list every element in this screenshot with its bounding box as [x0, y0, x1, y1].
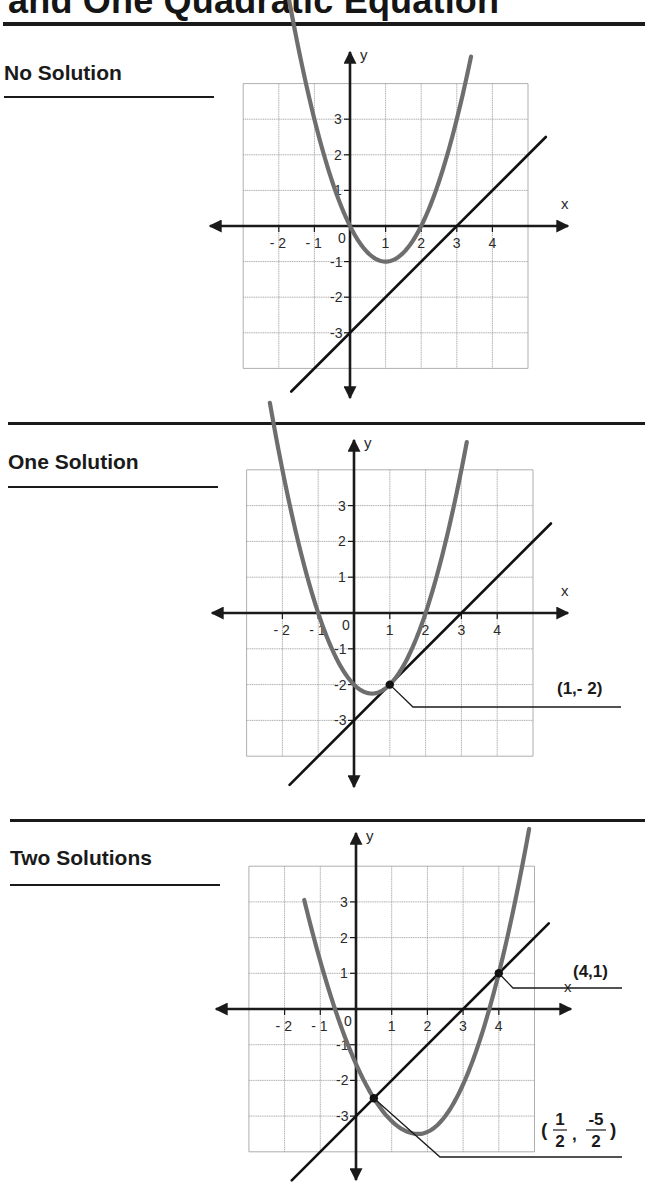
y-axis-label: y	[360, 46, 368, 63]
comma: ,	[572, 1125, 577, 1144]
fraction-denominator: 2	[591, 1132, 600, 1151]
paren-close: )	[610, 1119, 616, 1140]
x-tick-label: 4	[495, 1018, 503, 1034]
x-axis-label: x	[564, 978, 572, 995]
y-tick-label: 3	[340, 894, 348, 910]
linear-function-line	[290, 524, 551, 785]
x-axis-label: x	[561, 195, 569, 212]
y-tick-label: -3	[334, 712, 347, 728]
x-axis-label: x	[561, 582, 569, 599]
y-tick-label: 3	[338, 498, 346, 514]
x-tick-label: - 1	[311, 1018, 328, 1034]
x-tick-label: 0	[342, 617, 350, 633]
fraction-numerator: -5	[588, 1110, 603, 1129]
x-tick-label: 3	[453, 235, 461, 251]
graph-no-solution: - 2- 101234321-1-2-3xy	[210, 0, 569, 398]
intersection-label-1-neg2: (1,- 2)	[557, 679, 602, 698]
intersection-label-half-neg5half: ( 1 2 , -5 2 )	[541, 1110, 616, 1151]
y-tick-label: -2	[336, 1072, 349, 1088]
graph-one-solution: - 2- 101234321-1-2-3xy	[212, 403, 621, 787]
quadratic-function-curve	[284, 0, 471, 262]
y-tick-label: -3	[336, 1108, 349, 1124]
y-tick-label: 1	[340, 965, 348, 981]
fraction-denominator: 2	[555, 1132, 564, 1151]
y-tick-label: 2	[340, 930, 348, 946]
x-tick-label: 0	[338, 230, 346, 246]
linear-function-line	[292, 923, 549, 1180]
y-tick-label: 2	[334, 147, 342, 163]
x-tick-label: 1	[388, 1018, 396, 1034]
y-tick-label: 1	[338, 569, 346, 585]
x-tick-label: 0	[344, 1013, 352, 1029]
y-tick-label: -3	[330, 325, 343, 341]
graphs-canvas: - 2- 101234321-1-2-3xy - 2- 101234321-1-…	[0, 0, 645, 1182]
x-tick-label: 1	[382, 235, 390, 251]
x-tick-label: - 2	[273, 622, 290, 638]
x-tick-label: - 2	[270, 235, 287, 251]
y-tick-label: -2	[334, 677, 347, 693]
x-tick-label: - 2	[276, 1018, 293, 1034]
y-tick-label: 2	[338, 533, 346, 549]
y-tick-label: -1	[330, 254, 343, 270]
x-tick-label: 2	[417, 235, 425, 251]
x-tick-label: 2	[423, 1018, 431, 1034]
fraction-numerator: 1	[555, 1110, 564, 1129]
y-tick-label: 3	[334, 111, 342, 127]
intersection-label-4-1: (4,1)	[573, 962, 608, 981]
x-tick-label: 3	[459, 1018, 467, 1034]
x-tick-label: 4	[488, 235, 496, 251]
y-axis-label: y	[364, 434, 372, 451]
x-tick-label: 3	[457, 622, 465, 638]
paren-open: (	[541, 1119, 548, 1140]
y-tick-label: -2	[330, 289, 343, 305]
x-tick-label: 1	[386, 622, 394, 638]
y-axis-label: y	[366, 827, 374, 844]
x-tick-label: 4	[493, 622, 501, 638]
leader-line	[374, 1098, 622, 1157]
x-tick-label: - 1	[305, 235, 322, 251]
